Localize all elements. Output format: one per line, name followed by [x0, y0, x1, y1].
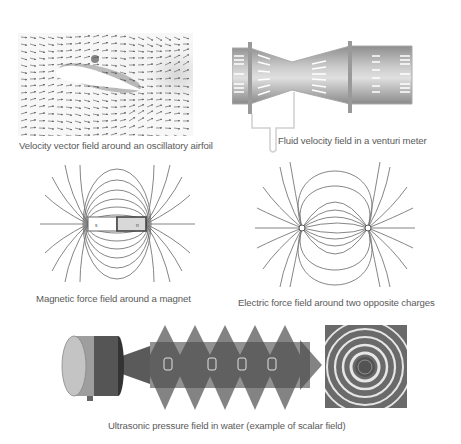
bar-magnet-field-icon: s n — [40, 165, 195, 282]
airfoil-vector-field-icon — [18, 33, 193, 136]
ultrasonic-caption: Ultrasonic pressure field in water (exam… — [108, 420, 346, 431]
magnet-pole-n: n — [136, 222, 139, 228]
charges-caption: Electric force field around two opposite… — [238, 297, 435, 308]
ultrasonic-pressure-field-icon — [60, 320, 330, 415]
pressure-rings-figure — [325, 325, 407, 408]
pressure-rings-icon — [325, 325, 407, 408]
dipole-field-icon — [255, 162, 415, 287]
ultrasonic-figure — [60, 320, 330, 415]
magnet-figure: s n — [40, 165, 195, 282]
charges-figure — [255, 162, 415, 287]
venturi-caption: Fluid velocity field in a venturi meter — [278, 135, 427, 146]
airfoil-caption: Velocity vector field around an oscillat… — [19, 140, 213, 151]
magnet-caption: Magnetic force field around a magnet — [36, 293, 191, 304]
airfoil-figure — [18, 33, 193, 136]
